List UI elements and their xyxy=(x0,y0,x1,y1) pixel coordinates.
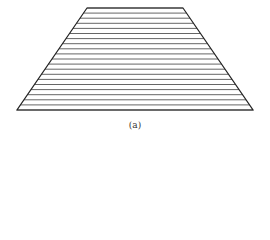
figure-caption: (a) xyxy=(0,120,270,130)
